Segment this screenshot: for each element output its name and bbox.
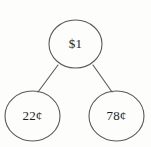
node-label-right-child: 78¢ [89, 109, 144, 122]
node-label-root: $1 [49, 37, 102, 50]
edge-root-to-right-child [93, 65, 112, 92]
diagram-canvas [0, 0, 151, 147]
edge-root-to-left-child [38, 65, 58, 92]
node-label-left-child: 22¢ [5, 109, 60, 122]
number-bond-diagram: $1 22¢ 78¢ [0, 0, 151, 147]
